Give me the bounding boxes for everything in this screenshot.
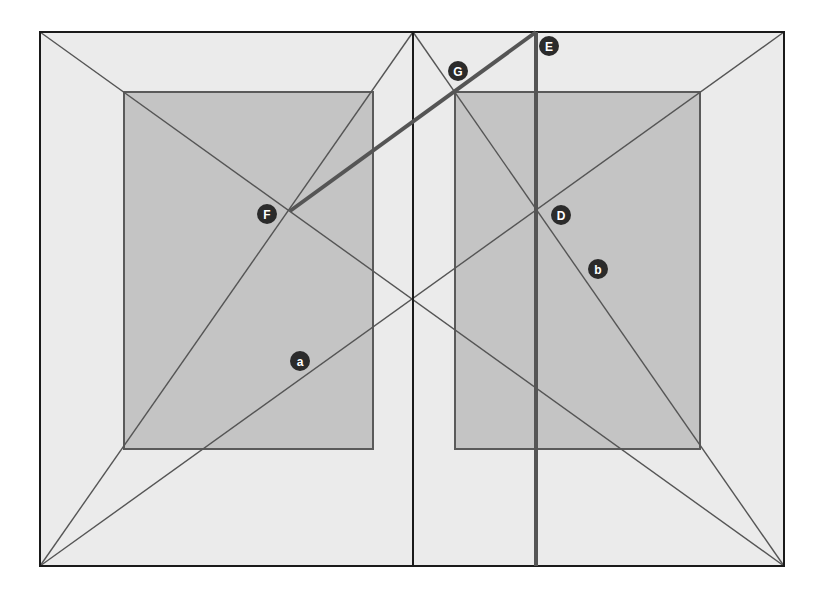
label-E: E — [539, 36, 559, 56]
page-layout-diagram: EGFDba — [0, 0, 820, 594]
label-text: D — [557, 209, 566, 223]
label-text: F — [263, 208, 270, 222]
label-F: F — [257, 204, 277, 224]
label-text: E — [545, 40, 553, 54]
label-text: G — [453, 65, 462, 79]
label-D: D — [551, 205, 571, 225]
label-a: a — [290, 351, 310, 371]
label-text: a — [297, 355, 304, 369]
left-text-block — [124, 92, 373, 449]
label-G: G — [448, 61, 468, 81]
label-text: b — [594, 263, 601, 277]
label-b: b — [588, 259, 608, 279]
